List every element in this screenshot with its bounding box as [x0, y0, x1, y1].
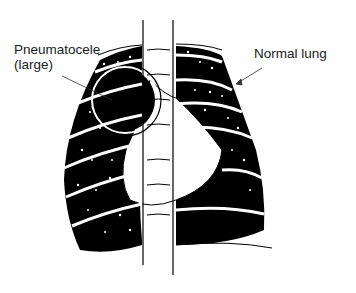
- pneumatocele-label: Pneumatocele (large): [14, 42, 100, 72]
- pneumatocele-label-line2: (large): [14, 57, 100, 72]
- normal-lung-label: Normal lung: [254, 46, 327, 61]
- pneumatocele-label-line1: Pneumatocele: [14, 42, 100, 57]
